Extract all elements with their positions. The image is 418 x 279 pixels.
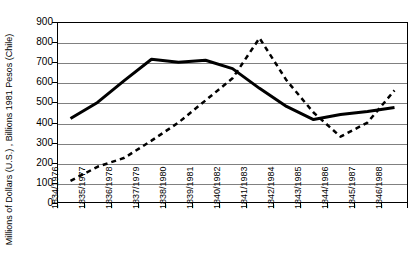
x-axis-label: 1837/1979 bbox=[129, 166, 143, 209]
series-line-1 bbox=[71, 59, 395, 119]
x-axis-label: 1835/1977 bbox=[75, 166, 89, 209]
y-axis-label: 800 bbox=[23, 37, 53, 47]
series-line-2 bbox=[71, 38, 395, 181]
y-axis-label: 400 bbox=[23, 118, 53, 128]
x-axis-label: 1842/1984 bbox=[264, 166, 278, 209]
x-axis-label: 1836/1978 bbox=[102, 166, 116, 209]
x-axis-label: 1846/1988 bbox=[372, 166, 386, 209]
y-axis-label: 600 bbox=[23, 77, 53, 87]
chart-figure: Millions of Dollars (U.S.) , Billions 19… bbox=[0, 0, 418, 279]
x-axis-label: 1845/1987 bbox=[345, 166, 359, 209]
x-axis-label: 1844/1986 bbox=[318, 166, 332, 209]
y-axis-label: 500 bbox=[23, 97, 53, 107]
y-axis-title: Millions of Dollars (U.S.) , Billions 19… bbox=[0, 0, 18, 279]
y-axis-label: 700 bbox=[23, 57, 53, 67]
x-axis-label: 1839/1981 bbox=[183, 166, 197, 209]
x-axis-label: 1843/1985 bbox=[291, 166, 305, 209]
x-axis-label: 1834/1976 bbox=[48, 166, 62, 209]
x-axis-label: 1838/1980 bbox=[156, 166, 170, 209]
y-axis-label: 300 bbox=[23, 138, 53, 148]
x-axis-label-slot: 1846/1988 bbox=[365, 209, 418, 223]
x-axis-label: 1841/1983 bbox=[237, 166, 251, 209]
x-axis-tick bbox=[407, 203, 408, 208]
x-axis-tick-labels: 1834/19761835/19771836/19781837/19791838… bbox=[57, 209, 408, 269]
x-axis-label: 1840/1982 bbox=[210, 166, 224, 209]
y-axis-label: 900 bbox=[23, 17, 53, 27]
